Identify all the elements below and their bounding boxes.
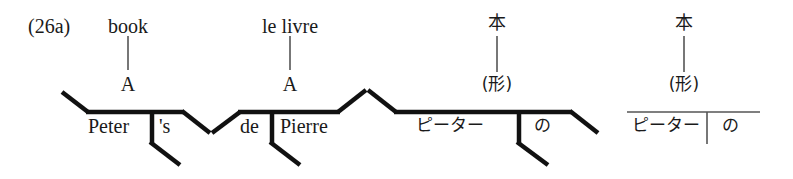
figure-number-label: (26a) <box>28 16 70 36</box>
baseline-term-panel3-right: の <box>534 117 551 134</box>
left-branch-panel2 <box>212 112 240 133</box>
baseline-term-panel2-right: Pierre <box>280 116 328 136</box>
right-branch-panel2 <box>338 90 366 112</box>
baseline-term-panel4-left: ピーター <box>632 117 700 134</box>
baseline-term-panel4-right: の <box>722 117 739 134</box>
figure-canvas: (26a) book A Peter 's le livre A de Pier… <box>0 0 793 179</box>
head-word-panel4: 本 <box>675 14 693 32</box>
right-branch-panel3 <box>570 111 598 133</box>
right-branch-panel1 <box>182 111 210 133</box>
head-word-panel2: le livre <box>262 16 318 36</box>
divider-tail-panel2 <box>270 142 300 165</box>
category-label-panel4: (形) <box>669 76 699 93</box>
divider-tail-panel3 <box>517 142 548 165</box>
category-label-panel3: (形) <box>482 76 512 93</box>
category-label-panel1: A <box>121 74 135 94</box>
divider-tail-panel1 <box>150 142 180 165</box>
baseline-term-panel1-right: 's <box>159 116 170 136</box>
head-word-panel3: 本 <box>488 14 506 32</box>
baseline-term-panel3-left: ピーター <box>416 117 484 134</box>
baseline-term-panel1-left: Peter <box>88 116 129 136</box>
head-word-panel1: book <box>108 16 148 36</box>
left-branch-panel3 <box>368 90 396 112</box>
baseline-term-panel2-left: de <box>240 116 259 136</box>
left-branch-panel1 <box>62 92 88 112</box>
category-label-panel2: A <box>283 74 297 94</box>
